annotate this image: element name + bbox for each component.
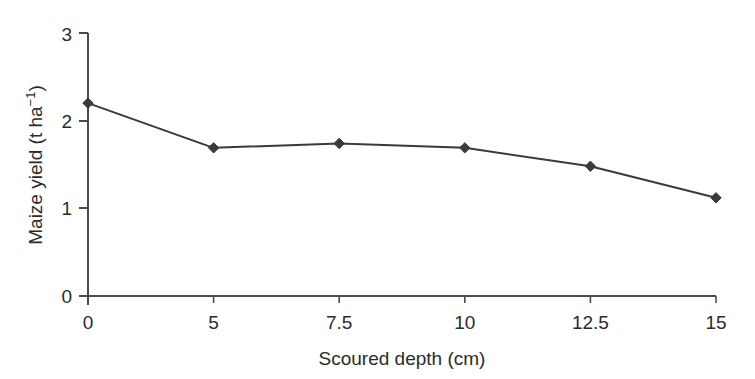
y-axis-title-superscript: −1 (23, 92, 38, 107)
y-tick-label-3: 3 (61, 24, 72, 45)
y-tick-label-0: 0 (61, 286, 72, 307)
y-axis-title-tail: ) (25, 85, 46, 91)
x-tick-label-0: 0 (83, 312, 94, 333)
x-tick-label-5: 15 (705, 312, 726, 333)
y-axis-title-main: Maize yield (t ha (25, 106, 46, 245)
y-axis-title: Maize yield (t ha−1) (23, 85, 46, 245)
chart-background (0, 0, 755, 379)
x-tick-label-1: 5 (208, 312, 219, 333)
x-tick-label-4: 12.5 (572, 312, 609, 333)
chart-figure: 0 1 2 3 0 5 7.5 10 12.5 15 Scoured depth… (0, 0, 755, 379)
x-axis-title: Scoured depth (cm) (319, 348, 486, 369)
x-tick-label-3: 10 (454, 312, 475, 333)
maize-yield-line-chart: 0 1 2 3 0 5 7.5 10 12.5 15 Scoured depth… (0, 0, 755, 379)
y-tick-label-1: 1 (61, 198, 72, 219)
x-tick-label-2: 7.5 (326, 312, 352, 333)
y-tick-label-2: 2 (61, 111, 72, 132)
